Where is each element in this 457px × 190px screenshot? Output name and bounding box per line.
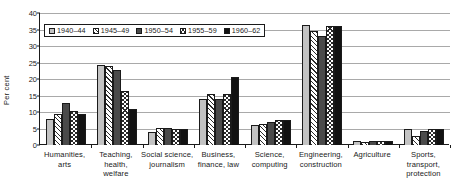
bar: [412, 136, 420, 145]
chart-legend: 1940–441945–491950–541955–591960–62: [44, 24, 265, 37]
bar: [275, 120, 283, 145]
x-axis-tick-mark: [91, 145, 92, 148]
y-axis-tick-label: 20: [29, 75, 37, 84]
legend-swatch-icon: [180, 28, 186, 34]
bar: [436, 129, 444, 145]
legend-item: 1950–54: [136, 26, 173, 35]
y-axis-tick-label: 10: [29, 108, 37, 117]
bar: [78, 114, 86, 145]
bar-group: [351, 13, 395, 145]
bar: [62, 103, 70, 145]
legend-label: 1960–62: [232, 26, 261, 35]
legend-item: 1945–49: [93, 26, 130, 35]
y-axis-tick-label: 35: [29, 25, 37, 34]
x-axis-tick-mark: [348, 145, 349, 148]
legend-label: 1950–54: [144, 26, 173, 35]
bar: [428, 129, 436, 145]
x-axis-tick-mark: [399, 145, 400, 148]
bar: [105, 66, 113, 145]
bar: [207, 94, 215, 145]
x-axis-tick-mark: [143, 145, 144, 148]
bar: [259, 124, 267, 145]
y-axis-title: Per cent: [1, 50, 12, 130]
y-axis-tick-label: 25: [29, 58, 37, 67]
bar: [46, 119, 54, 145]
bar: [180, 129, 188, 145]
bar: [353, 141, 361, 145]
bar: [156, 128, 164, 145]
bar: [148, 132, 156, 145]
legend-label: 1945–49: [101, 26, 130, 35]
bar-group: [300, 13, 344, 145]
bar: [385, 141, 393, 145]
x-axis-category-label: Sports,transport,protection: [394, 150, 453, 179]
bar: [172, 129, 180, 145]
x-axis-tick-mark: [450, 145, 451, 148]
bar: [223, 94, 231, 145]
x-axis-category-labels: Humanities,artsTeaching,health,welfareSo…: [39, 150, 449, 190]
bar: [215, 99, 223, 145]
legend-label: 1940–44: [57, 26, 86, 35]
bar: [267, 122, 275, 145]
legend-item: 1960–62: [224, 26, 261, 35]
bar: [326, 26, 334, 145]
bar: [334, 26, 342, 145]
legend-swatch-icon: [93, 28, 99, 34]
bar: [361, 142, 369, 145]
bar: [70, 111, 78, 145]
legend-swatch-icon: [224, 28, 230, 34]
bar: [251, 125, 259, 145]
bar: [113, 70, 121, 145]
legend-label: 1955–59: [188, 26, 217, 35]
legend-swatch-icon: [136, 28, 142, 34]
x-axis-tick-mark: [194, 145, 195, 148]
bar: [377, 141, 385, 145]
bar: [199, 99, 207, 145]
legend-swatch-icon: [49, 28, 55, 34]
x-axis-tick-mark: [296, 145, 297, 148]
bar: [164, 128, 172, 145]
bar: [129, 109, 137, 145]
y-axis-tick-label: 15: [29, 91, 37, 100]
bar: [54, 114, 62, 145]
bar: [369, 141, 377, 145]
bar: [310, 31, 318, 145]
bar-group: [402, 13, 446, 145]
legend-item: 1940–44: [49, 26, 86, 35]
bar: [121, 91, 129, 145]
y-axis-tick-label: 30: [29, 42, 37, 51]
bar: [318, 36, 326, 145]
y-axis-tick-label: 40: [29, 9, 37, 18]
bar: [283, 120, 291, 145]
bar-chart: Per cent 0510152025303540 Humanities,art…: [0, 0, 457, 190]
bar: [302, 25, 310, 145]
bar: [420, 131, 428, 145]
bar: [404, 129, 412, 145]
bar: [231, 77, 239, 145]
x-axis-tick-mark: [245, 145, 246, 148]
bar: [97, 65, 105, 145]
legend-item: 1955–59: [180, 26, 217, 35]
